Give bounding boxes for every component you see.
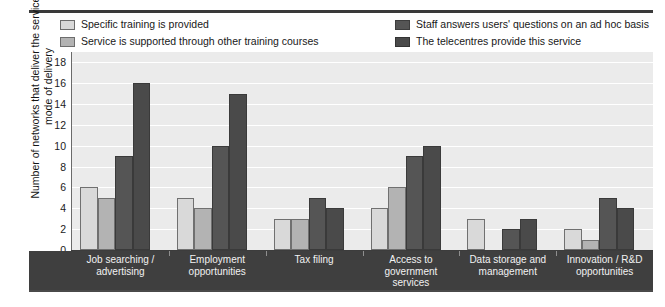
y-axis-tick-label: 18: [8, 56, 66, 68]
bar: [309, 198, 327, 250]
legend-item-telecentres-provide: The telecentres provide this service: [395, 34, 649, 49]
bar: [371, 208, 389, 250]
legend-swatch-icon: [60, 20, 75, 30]
legend-item-other-training-courses: Service is supported through other train…: [60, 34, 319, 49]
bar: [194, 208, 212, 250]
legend-column-right: Staff answers users' questions on an ad …: [395, 17, 649, 51]
bar: [502, 229, 520, 250]
bar-group: [266, 52, 363, 250]
x-axis-band: Job searching / advertisingEmployment op…: [29, 251, 653, 290]
x-axis-label: Innovation / R&D opportunities: [556, 254, 653, 277]
legend-swatch-icon: [395, 37, 410, 47]
legend-swatch-icon: [60, 37, 75, 47]
chart-legend: Specific training is provided Service is…: [60, 17, 655, 49]
bar: [133, 83, 151, 250]
bar: [326, 208, 344, 250]
x-axis-label: Access to government services: [363, 254, 460, 289]
bar-group: [459, 52, 556, 250]
bar: [467, 219, 485, 250]
bar-group: [363, 52, 460, 250]
bar: [520, 219, 538, 250]
legend-item-specific-training: Specific training is provided: [60, 17, 319, 32]
x-axis-tickmark: [459, 251, 460, 256]
bar-group: [556, 52, 653, 250]
legend-label: The telecentres provide this service: [416, 36, 581, 47]
legend-swatch-icon: [395, 20, 410, 30]
x-axis-label: Data storage and management: [459, 254, 556, 277]
legend-label: Specific training is provided: [81, 19, 209, 30]
top-rule: [29, 10, 653, 13]
chart-figure: Specific training is provided Service is…: [0, 0, 665, 307]
y-axis-tick-label: 6: [8, 181, 66, 193]
x-axis-tickmark: [363, 251, 364, 256]
legend-label: Service is supported through other train…: [81, 36, 319, 47]
bar-group: [72, 52, 169, 250]
legend-item-ad-hoc-basis: Staff answers users' questions on an ad …: [395, 17, 649, 32]
bar: [291, 219, 309, 250]
bar: [229, 94, 247, 250]
y-axis-tick-label: 12: [8, 119, 66, 131]
bar: [423, 146, 441, 250]
bar: [406, 156, 424, 250]
y-axis-tick-label: 8: [8, 161, 66, 173]
bar: [388, 187, 406, 250]
y-axis-tick-label: 4: [8, 202, 66, 214]
x-axis-label: Employment opportunities: [169, 254, 266, 277]
bar: [115, 156, 133, 250]
x-axis-label: Job searching / advertising: [72, 254, 169, 277]
y-axis-tick-label: 10: [8, 140, 66, 152]
x-axis-tickmark: [266, 251, 267, 256]
legend-column-left: Specific training is provided Service is…: [60, 17, 319, 51]
bar: [617, 208, 635, 250]
bar-group: [169, 52, 266, 250]
y-axis-tick-label: 14: [8, 98, 66, 110]
bar: [98, 198, 116, 250]
bar: [582, 240, 600, 250]
y-axis-tick-label: 2: [8, 223, 66, 235]
bar: [599, 198, 617, 250]
bar: [564, 229, 582, 250]
legend-label: Staff answers users' questions on an ad …: [416, 19, 649, 30]
bar: [177, 198, 195, 250]
x-axis-label: Tax filing: [266, 254, 363, 266]
y-axis-tick-label: 16: [8, 77, 66, 89]
bottom-rule: [29, 290, 653, 292]
bar-groups: [72, 52, 653, 250]
x-axis-tickmark: [169, 251, 170, 256]
x-axis-tickmark: [556, 251, 557, 256]
bar: [212, 146, 230, 250]
bar: [274, 219, 292, 250]
bar: [80, 187, 98, 250]
y-axis-ticks: 024681012141618: [0, 52, 66, 251]
